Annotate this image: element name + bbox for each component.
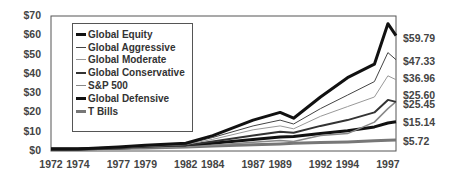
y-tick-label: $30: [5, 86, 41, 98]
x-tick-label: 1979: [125, 158, 165, 170]
legend-item: Global Conservative: [76, 66, 192, 79]
legend-item: Global Aggressive: [76, 41, 192, 54]
x-tick-label: 1997: [368, 158, 408, 170]
y-tick-label: $20: [5, 105, 41, 117]
legend-label: S&P 500: [88, 80, 128, 91]
legend-swatch: [76, 47, 86, 48]
legend-item: T Bills: [76, 105, 192, 118]
y-tick-label: $60: [5, 28, 41, 40]
legend-item: Global Defensive: [76, 92, 192, 105]
y-tick-label: $50: [5, 48, 41, 60]
legend-swatch: [76, 59, 86, 60]
y-tick-label: $70: [5, 9, 41, 21]
legend-swatch: [76, 72, 86, 74]
y-tick-label: $40: [5, 67, 41, 79]
end-value-label: $36.96: [403, 72, 435, 84]
y-tick-label: $10: [5, 125, 41, 137]
x-tick-label: 1984: [193, 158, 233, 170]
x-tick-label: 1994: [327, 158, 367, 170]
legend-label: Global Equity: [88, 29, 152, 40]
legend-item: Global Moderate: [76, 54, 192, 67]
line-chart: [0, 0, 453, 182]
x-tick-label: 1989: [260, 158, 300, 170]
end-value-label: $5.72: [403, 135, 429, 147]
legend-swatch: [76, 110, 86, 113]
legend-swatch: [76, 97, 86, 100]
end-value-label: $25.45: [403, 98, 435, 110]
y-tick-label: $0: [5, 144, 41, 156]
end-value-label: $59.79: [403, 32, 435, 44]
legend-item: S&P 500: [76, 79, 192, 92]
legend-label: Global Aggressive: [88, 42, 175, 53]
legend-label: Global Conservative: [88, 67, 185, 78]
x-tick-label: 1974: [58, 158, 98, 170]
legend-item: Global Equity: [76, 28, 192, 41]
legend-label: Global Defensive: [88, 93, 169, 104]
legend: Global EquityGlobal AggressiveGlobal Mod…: [72, 23, 193, 132]
legend-swatch: [76, 85, 86, 87]
end-value-label: $47.33: [403, 55, 435, 67]
end-value-label: $15.14: [403, 116, 435, 128]
legend-label: T Bills: [88, 106, 118, 117]
legend-swatch: [76, 33, 86, 36]
legend-label: Global Moderate: [88, 54, 166, 65]
